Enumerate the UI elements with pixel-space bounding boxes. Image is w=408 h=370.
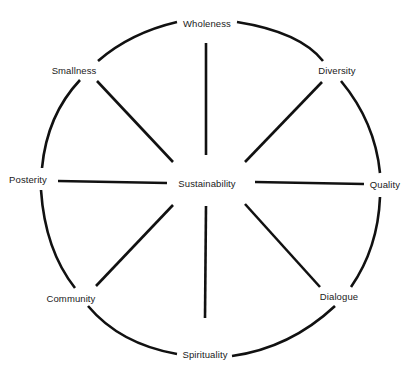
spoke-spirituality [205,206,206,318]
spoke-quality [255,182,364,184]
arc-spirituality-community [88,306,177,354]
node-label-smallness: Smallness [52,66,97,76]
node-label-spirituality: Spirituality [182,350,227,360]
spoke-diversity [245,82,322,162]
node-label-community: Community [47,294,96,304]
node-label-diversity: Diversity [318,66,355,76]
arc-smallness-wholeness [98,22,177,61]
node-label-posterity: Posterity [9,175,47,185]
spoke-posterity [58,181,167,183]
node-label-wholeness: Wholeness [183,19,231,29]
center-label-sustainability: Sustainability [178,179,235,189]
arc-dialogue-spirituality [232,306,335,356]
node-label-dialogue: Dialogue [320,292,358,302]
arc-community-posterity [41,190,75,288]
arc-quality-dialogue [351,197,380,287]
spoke-dialogue [245,204,320,287]
arc-wholeness-diversity [237,22,323,61]
node-label-quality: Quality [370,180,400,190]
arc-posterity-smallness [42,80,80,168]
arc-diversity-quality [341,81,380,173]
spoke-smallness [97,81,173,162]
spoke-community [96,205,173,286]
